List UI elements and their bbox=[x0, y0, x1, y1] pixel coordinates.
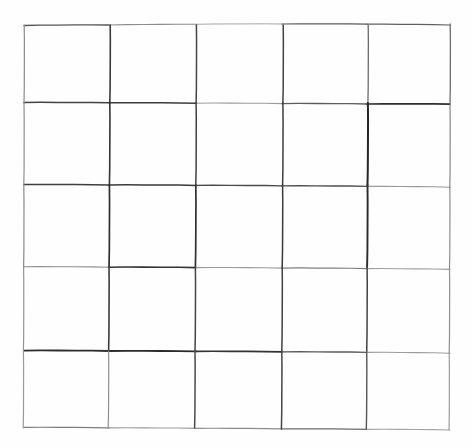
grid-cell-r2-c5[interactable] bbox=[367, 104, 450, 187]
grid-cell-r5-c4[interactable] bbox=[282, 352, 367, 429]
grid-cell-r4-c5[interactable] bbox=[367, 268, 450, 352]
grid-cell-r4-c2[interactable] bbox=[109, 268, 196, 352]
grid-cell-r4-c4[interactable] bbox=[282, 268, 367, 352]
grid-cell-r1-c2[interactable] bbox=[109, 25, 196, 104]
grid-cell-r4-c1[interactable] bbox=[24, 268, 110, 352]
grid-cell-r1-c5[interactable] bbox=[367, 25, 450, 104]
grid-cells-group bbox=[24, 25, 450, 430]
grid-cell-r3-c2[interactable] bbox=[109, 186, 196, 268]
grid-cell-r1-c1[interactable] bbox=[24, 25, 110, 104]
grid-cell-r4-c3[interactable] bbox=[196, 268, 283, 352]
grid-cell-r5-c1[interactable] bbox=[24, 352, 110, 429]
grid-cell-r1-c4[interactable] bbox=[282, 25, 367, 104]
grid-cell-r3-c3[interactable] bbox=[196, 186, 283, 268]
drawing-canvas bbox=[0, 0, 471, 448]
grid-cell-r5-c3[interactable] bbox=[196, 352, 283, 429]
grid-cell-r5-c2[interactable] bbox=[109, 352, 196, 429]
grid-cell-r3-c1[interactable] bbox=[24, 186, 110, 268]
grid-cell-r3-c5[interactable] bbox=[367, 186, 450, 268]
grid-cell-r2-c4[interactable] bbox=[282, 104, 367, 187]
grid-line-bottom-border-seg4 bbox=[367, 429, 450, 430]
grid-cell-r2-c2[interactable] bbox=[109, 104, 196, 187]
grid-cell-r2-c1[interactable] bbox=[24, 104, 110, 187]
grid-cell-r3-c4[interactable] bbox=[282, 186, 367, 268]
grid-cell-r2-c3[interactable] bbox=[196, 104, 283, 187]
grid-cell-r1-c3[interactable] bbox=[196, 25, 283, 104]
hand-drawn-grid bbox=[0, 0, 471, 448]
grid-cell-r5-c5[interactable] bbox=[367, 352, 450, 429]
